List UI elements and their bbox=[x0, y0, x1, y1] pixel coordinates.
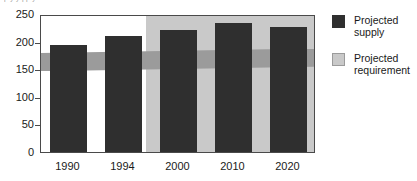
y-axis-tick-label: 150 bbox=[0, 64, 34, 75]
x-axis-tick-label: 2020 bbox=[260, 160, 316, 172]
chart-legend: Projected supply Projected requirement bbox=[332, 14, 417, 90]
y-axis-tick-label: 0 bbox=[0, 147, 34, 158]
bar bbox=[215, 23, 251, 152]
y-axis-tick-label: 200 bbox=[0, 37, 34, 48]
chart-figure: 050100150200250 19901994200020102020 Pro… bbox=[0, 0, 417, 181]
legend-swatch-icon-supply bbox=[332, 15, 345, 28]
legend-item-projected-supply[interactable]: Projected supply bbox=[332, 14, 417, 38]
bar bbox=[160, 30, 196, 152]
legend-label-requirement: Projected requirement bbox=[354, 52, 410, 76]
legend-item-projected-requirement[interactable]: Projected requirement bbox=[332, 52, 417, 76]
y-axis-tick-label: 100 bbox=[0, 92, 34, 103]
x-axis-tick-label: 1990 bbox=[40, 160, 96, 172]
bar bbox=[105, 36, 141, 152]
y-axis-tick-label: 50 bbox=[0, 119, 34, 130]
legend-swatch-icon-requirement bbox=[332, 53, 345, 66]
y-axis-labels: 050100150200250 bbox=[0, 0, 34, 181]
y-axis-tick-label: 250 bbox=[0, 9, 34, 20]
x-axis-tick-label: 2000 bbox=[150, 160, 206, 172]
x-axis-tick-label: 1994 bbox=[95, 160, 151, 172]
bar bbox=[50, 45, 86, 152]
legend-label-supply: Projected supply bbox=[354, 14, 398, 38]
bar bbox=[270, 27, 306, 152]
x-axis-tick-label: 2010 bbox=[205, 160, 261, 172]
plot-area bbox=[40, 15, 315, 153]
